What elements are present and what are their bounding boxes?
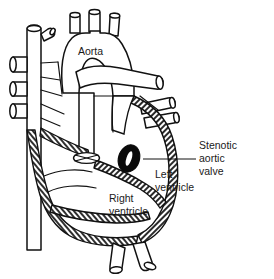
pulmonary-valve <box>74 153 100 164</box>
left-subclavian-artery <box>109 13 120 36</box>
pulmonary-vein-stump-left-2 <box>10 82 27 96</box>
label-right-ventricle-line1: Right <box>109 192 134 204</box>
label-stenotic-line3: valve <box>199 165 224 177</box>
left-common-carotid-artery <box>89 10 100 32</box>
pulmonary-vein-stump-left-3 <box>10 104 27 118</box>
brachiocephalic-trunk <box>70 13 80 33</box>
pulmonary-veins-left <box>10 57 27 118</box>
label-stenotic-line1: Stenotic <box>199 139 237 151</box>
heart-anatomy-illustration: Aorta Left ventricle Right ventricle Ste… <box>0 0 274 279</box>
pulmonary-vein-stump-left-1 <box>10 57 27 72</box>
label-right-ventricle-line2: ventricle <box>109 205 148 217</box>
label-aorta: Aorta <box>78 45 103 57</box>
label-left-ventricle-line1: Left <box>155 168 173 180</box>
heart-diagram-figure: Aorta Left ventricle Right ventricle Ste… <box>0 0 274 279</box>
label-left-ventricle-line2: ventricle <box>155 181 194 193</box>
label-stenotic-line2: aortic <box>199 152 225 164</box>
